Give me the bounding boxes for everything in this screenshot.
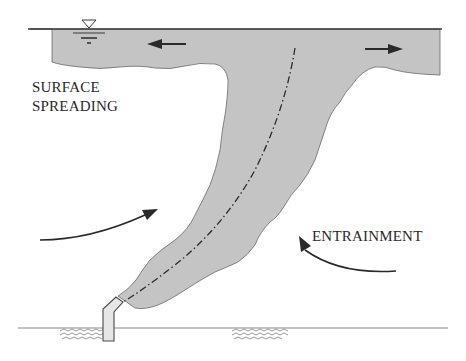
gravel-right [232, 329, 288, 339]
entrainment-left-arrow-icon [40, 209, 158, 240]
surface-spreading-line1: SURFACE [32, 78, 118, 97]
surface-spreading-line2: SPREADING [32, 97, 118, 116]
gravel-left [60, 329, 108, 339]
entrainment-label: ENTRAINMENT [312, 227, 423, 246]
plume-body [30, 29, 440, 309]
surface-spreading-label: SURFACE SPREADING [32, 78, 118, 116]
discharge-pipe [103, 297, 123, 341]
plume-diagram [0, 0, 466, 361]
